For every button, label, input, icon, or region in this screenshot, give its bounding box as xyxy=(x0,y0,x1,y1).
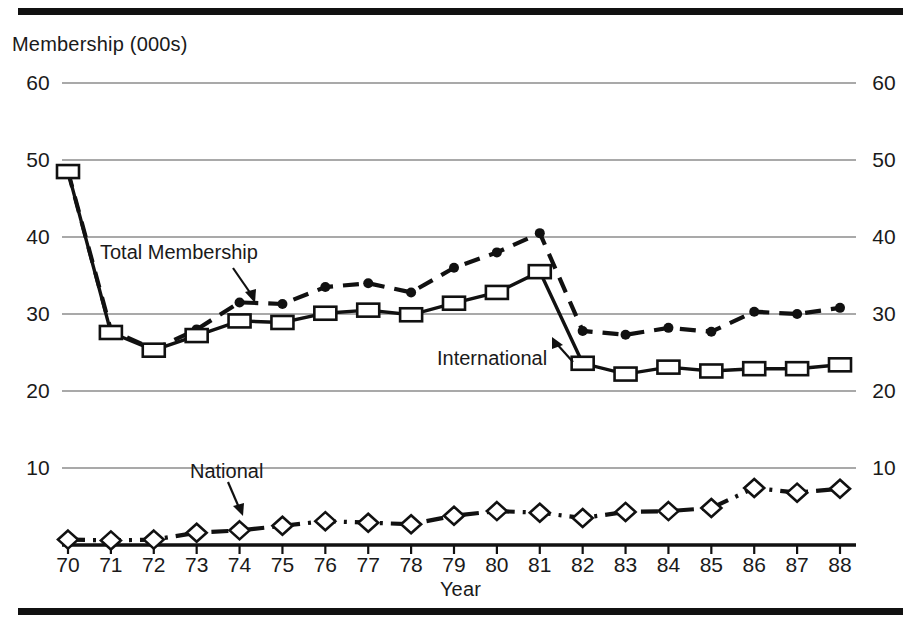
plot-area xyxy=(0,0,921,633)
y-tick-left-60: 60 xyxy=(26,71,49,95)
point-international-71 xyxy=(100,326,122,339)
y-tick-left-30: 30 xyxy=(26,302,49,326)
chart-figure: Membership (000s) Year Total Membership … xyxy=(0,0,921,633)
x-tick-label-79: 79 xyxy=(442,553,465,577)
x-tick-label-81: 81 xyxy=(528,553,551,577)
point-total-membership-77 xyxy=(363,278,373,288)
point-international-74 xyxy=(229,314,251,327)
x-tick-label-77: 77 xyxy=(357,553,380,577)
point-national-87 xyxy=(787,484,807,502)
point-total-membership-82 xyxy=(578,326,588,336)
point-international-78 xyxy=(400,308,422,321)
series-line-international xyxy=(68,172,840,375)
point-national-76 xyxy=(315,512,335,530)
y-tick-right-40: 40 xyxy=(872,225,895,249)
x-tick-label-85: 85 xyxy=(700,553,723,577)
y-tick-left-10: 10 xyxy=(26,456,49,480)
y-tick-left-20: 20 xyxy=(26,379,49,403)
x-tick-label-78: 78 xyxy=(399,553,422,577)
point-total-membership-83 xyxy=(621,330,631,340)
point-international-84 xyxy=(657,361,679,374)
point-total-membership-79 xyxy=(449,263,459,273)
x-tick-label-84: 84 xyxy=(657,553,680,577)
point-national-79 xyxy=(444,507,464,525)
point-total-membership-76 xyxy=(320,282,330,292)
y-tick-right-50: 50 xyxy=(872,148,895,172)
point-international-85 xyxy=(700,364,722,377)
annotation-international: International xyxy=(437,347,547,370)
point-international-83 xyxy=(615,368,637,381)
point-national-73 xyxy=(187,524,207,542)
point-international-87 xyxy=(786,362,808,375)
x-tick-label-74: 74 xyxy=(228,553,251,577)
point-national-78 xyxy=(401,515,421,533)
leader-national-arrowhead xyxy=(233,503,244,516)
point-international-73 xyxy=(186,329,208,342)
point-national-81 xyxy=(530,504,550,522)
x-tick-label-73: 73 xyxy=(185,553,208,577)
x-tick-label-87: 87 xyxy=(785,553,808,577)
point-total-membership-81 xyxy=(535,228,545,238)
point-total-membership-78 xyxy=(406,287,416,297)
annotation-total-membership: Total Membership xyxy=(100,241,258,264)
x-tick-label-80: 80 xyxy=(485,553,508,577)
point-national-83 xyxy=(616,503,636,521)
point-total-membership-84 xyxy=(663,323,673,333)
point-international-88 xyxy=(829,358,851,371)
point-international-76 xyxy=(314,307,336,320)
point-international-79 xyxy=(443,297,465,310)
point-national-77 xyxy=(358,514,378,532)
point-national-85 xyxy=(701,499,721,517)
point-national-75 xyxy=(272,517,292,535)
annotation-national: National xyxy=(190,460,263,483)
point-national-74 xyxy=(230,521,250,539)
point-national-80 xyxy=(487,502,507,520)
x-tick-label-82: 82 xyxy=(571,553,594,577)
point-national-86 xyxy=(744,479,764,497)
x-tick-label-75: 75 xyxy=(271,553,294,577)
y-tick-right-30: 30 xyxy=(872,302,895,326)
point-international-70 xyxy=(57,165,79,178)
point-international-75 xyxy=(271,316,293,329)
x-tick-label-86: 86 xyxy=(743,553,766,577)
x-tick-label-71: 71 xyxy=(99,553,122,577)
point-international-77 xyxy=(357,304,379,317)
leader-international-arrowhead xyxy=(552,337,563,349)
x-tick-label-72: 72 xyxy=(142,553,165,577)
point-national-82 xyxy=(573,509,593,527)
y-tick-right-10: 10 xyxy=(872,456,895,480)
point-total-membership-74 xyxy=(235,297,245,307)
gridlines xyxy=(62,83,856,468)
point-total-membership-86 xyxy=(749,307,759,317)
y-tick-right-60: 60 xyxy=(872,71,895,95)
point-international-81 xyxy=(529,265,551,278)
point-international-86 xyxy=(743,362,765,375)
y-tick-right-20: 20 xyxy=(872,379,895,403)
point-total-membership-75 xyxy=(277,299,287,309)
point-international-72 xyxy=(143,344,165,357)
point-total-membership-85 xyxy=(706,327,716,337)
x-tick-label-70: 70 xyxy=(56,553,79,577)
x-tick-label-83: 83 xyxy=(614,553,637,577)
x-tick-label-76: 76 xyxy=(314,553,337,577)
point-total-membership-80 xyxy=(492,247,502,257)
point-international-82 xyxy=(572,357,594,370)
point-total-membership-88 xyxy=(835,303,845,313)
point-national-84 xyxy=(658,502,678,520)
y-tick-left-50: 50 xyxy=(26,148,49,172)
y-tick-left-40: 40 xyxy=(26,225,49,249)
point-total-membership-87 xyxy=(792,309,802,319)
x-tick-label-88: 88 xyxy=(828,553,851,577)
point-national-88 xyxy=(830,480,850,498)
point-international-80 xyxy=(486,286,508,299)
